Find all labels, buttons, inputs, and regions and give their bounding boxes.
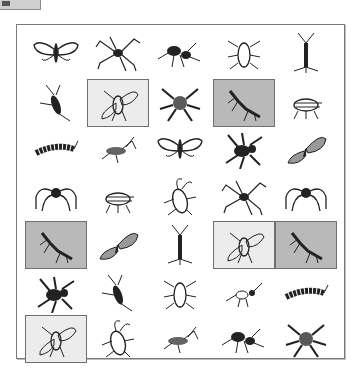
grid-cell[interactable] xyxy=(149,173,211,221)
corner-mark xyxy=(2,1,10,6)
grid-cell[interactable] xyxy=(149,315,211,363)
cicada-icon xyxy=(92,177,144,217)
caterpillar-icon xyxy=(30,129,82,169)
grid-cell[interactable] xyxy=(275,125,337,173)
mantis-icon xyxy=(218,83,270,123)
silverfish-icon xyxy=(154,225,206,265)
hairy-spider-icon xyxy=(154,83,206,123)
grid-cell[interactable] xyxy=(149,29,211,77)
cricket-icon xyxy=(92,273,144,313)
grid-cell[interactable] xyxy=(275,29,337,77)
grasshopper-icon xyxy=(154,319,206,359)
long-leg-spider-icon xyxy=(30,177,82,217)
grid-cell[interactable] xyxy=(87,221,149,269)
grid-cell[interactable] xyxy=(213,79,275,127)
grid-cell[interactable] xyxy=(149,269,211,317)
grid-cell[interactable] xyxy=(213,269,275,317)
moth-icon xyxy=(30,33,82,73)
ant-icon xyxy=(218,319,270,359)
hairy-spider-icon xyxy=(280,319,332,359)
mantis-icon xyxy=(30,225,82,265)
grid-cell[interactable] xyxy=(213,315,275,363)
black-spider-icon xyxy=(30,273,82,313)
grasshopper-icon xyxy=(92,129,144,169)
long-leg-spider-icon xyxy=(280,177,332,217)
grid-cell[interactable] xyxy=(25,315,87,363)
grid-cell[interactable] xyxy=(149,79,211,127)
caterpillar-icon xyxy=(280,273,332,313)
grid-cell[interactable] xyxy=(213,173,275,221)
grid-cell[interactable] xyxy=(213,125,275,173)
butterfly-icon xyxy=(92,225,144,265)
grid-cell[interactable] xyxy=(87,125,149,173)
butterfly-icon xyxy=(280,129,332,169)
cockroach-icon xyxy=(92,319,144,359)
grid-cell[interactable] xyxy=(275,315,337,363)
grid-cell[interactable] xyxy=(25,173,87,221)
grid-cell[interactable] xyxy=(275,173,337,221)
grid-cell[interactable] xyxy=(275,221,337,269)
fly-icon xyxy=(30,319,82,359)
silverfish-icon xyxy=(280,33,332,73)
grid-cell[interactable] xyxy=(213,29,275,77)
grid-cell[interactable] xyxy=(25,79,87,127)
grid-cell[interactable] xyxy=(213,221,275,269)
grid-cell[interactable] xyxy=(149,221,211,269)
corner-tab xyxy=(0,0,41,10)
grid-cell[interactable] xyxy=(149,125,211,173)
grid-cell[interactable] xyxy=(275,79,337,127)
grid-cell[interactable] xyxy=(25,269,87,317)
beetle-icon xyxy=(218,33,270,73)
grid-cell[interactable] xyxy=(87,29,149,77)
grid-cell[interactable] xyxy=(25,221,87,269)
grid-cell[interactable] xyxy=(87,79,149,127)
grid-cell[interactable] xyxy=(87,269,149,317)
image-grid xyxy=(16,24,345,359)
cicada-icon xyxy=(280,83,332,123)
cockroach-icon xyxy=(154,177,206,217)
mantis-icon xyxy=(280,225,332,265)
grid-cell[interactable] xyxy=(87,173,149,221)
black-spider-icon xyxy=(218,129,270,169)
ant-small-icon xyxy=(218,273,270,313)
cricket-icon xyxy=(30,83,82,123)
beetle-icon xyxy=(154,273,206,313)
fly-icon xyxy=(218,225,270,265)
harvestman-spider-icon xyxy=(218,177,270,217)
moth-icon xyxy=(154,129,206,169)
harvestman-spider-icon xyxy=(92,33,144,73)
grid-cell[interactable] xyxy=(25,125,87,173)
grid-cell[interactable] xyxy=(25,29,87,77)
ant-icon xyxy=(154,33,206,73)
grid-cell[interactable] xyxy=(87,315,149,363)
fly-icon xyxy=(92,83,144,123)
grid-cell[interactable] xyxy=(275,269,337,317)
